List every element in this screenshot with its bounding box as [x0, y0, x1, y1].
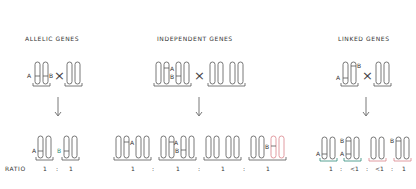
svg-text:A: A — [174, 139, 179, 146]
linked-parent-1: A B — [336, 62, 361, 86]
ratio-sep: : — [56, 165, 58, 172]
svg-text:B: B — [357, 62, 361, 69]
independent-parent-2 — [208, 62, 245, 86]
ratio-sep: : — [366, 165, 368, 172]
cross-symbol: × — [194, 68, 205, 83]
ratio-value: 1 — [176, 165, 180, 172]
label-b: B — [49, 72, 53, 79]
allelic-offspring-1: A — [32, 136, 53, 160]
cross-symbol: × — [54, 68, 65, 83]
svg-text:B: B — [265, 143, 269, 150]
linked-offspring-3 — [369, 137, 386, 161]
svg-text:A: A — [336, 74, 341, 81]
arrow-down-icon — [55, 97, 61, 116]
allelic-offspring-2: B — [57, 136, 79, 160]
ratio-sep: : — [243, 165, 245, 172]
independent-parent-1: A B — [154, 62, 191, 86]
arrow-down-icon — [196, 97, 202, 116]
linked-offspring-2: B A — [340, 137, 361, 161]
svg-text:B: B — [170, 73, 174, 80]
independent-offspring-2: A B — [159, 136, 196, 160]
allelic-parent-2 — [65, 62, 82, 86]
linked-parent-2 — [374, 62, 391, 86]
svg-text:B: B — [390, 137, 394, 144]
cross-symbol: × — [362, 68, 373, 83]
svg-text:A: A — [32, 147, 37, 154]
arrow-down-icon — [363, 97, 369, 116]
ratio-value: 1 — [402, 165, 406, 172]
ratio-sep: : — [152, 165, 154, 172]
ratio-sep: : — [391, 165, 393, 172]
svg-text:B: B — [57, 147, 61, 154]
independent-offspring-4: B — [249, 136, 286, 160]
ratio-sep: : — [198, 165, 200, 172]
ratio-value: 1 — [43, 165, 47, 172]
linked-offspring-4: B — [390, 137, 411, 161]
ratio-value: 1 — [266, 165, 270, 172]
svg-text:B: B — [340, 137, 344, 144]
ratio-value: 1 — [221, 165, 225, 172]
ratio-value: 1 — [329, 165, 333, 172]
svg-text:A: A — [170, 65, 175, 72]
ratio-value: 1 — [69, 165, 73, 172]
linked-offspring-1: A — [316, 137, 337, 161]
independent-offspring-1: A — [114, 136, 151, 160]
independent-offspring-3 — [204, 136, 241, 160]
ratio-sep: : — [340, 165, 342, 172]
svg-text:A: A — [340, 150, 345, 157]
label-a: A — [27, 72, 32, 79]
svg-text:B: B — [175, 147, 179, 154]
ratio-value: 1 — [131, 165, 135, 172]
ratio-value: <1 — [350, 165, 359, 172]
svg-text:A: A — [130, 139, 135, 146]
genetics-diagram: A B × A B A B × — [0, 0, 416, 189]
allelic-parent-1: A B — [27, 62, 53, 86]
svg-text:A: A — [316, 150, 321, 157]
ratio-value: <1 — [375, 165, 384, 172]
